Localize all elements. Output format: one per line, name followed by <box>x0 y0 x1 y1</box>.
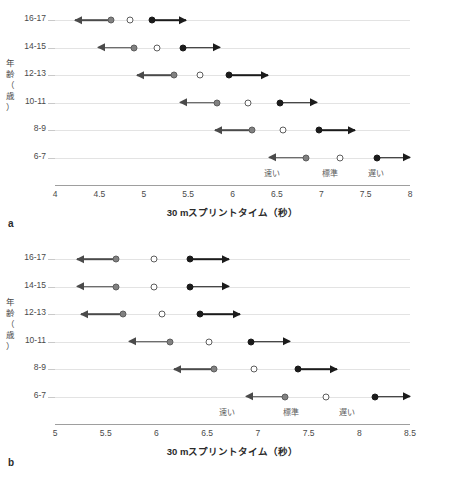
arrow-slower <box>375 396 411 398</box>
y-axis-title-char: 齢 <box>4 69 18 80</box>
y-axis-title-a: 年齢（歳） <box>4 58 18 113</box>
legend-label: 標準 <box>283 406 299 417</box>
y-axis-tick-label: 16-17 <box>24 252 46 262</box>
marker-standard <box>158 311 165 318</box>
y-axis-tick-label: 8-9 <box>34 123 46 133</box>
panel-a: 年齢（歳） 16-1714-1512-1310-118-96-7速い標準遅い44… <box>0 0 463 239</box>
y-axis-tick <box>48 20 55 21</box>
legend-label: 速い <box>264 167 280 178</box>
x-axis-tick-label: 5 <box>53 428 58 438</box>
x-axis-tick-label: 7.5 <box>360 189 372 199</box>
y-axis-tick-label: 10-11 <box>25 335 46 345</box>
y-axis-title-char: 歳 <box>4 330 18 341</box>
marker-fast <box>249 127 256 134</box>
arrow-slower <box>190 286 230 288</box>
y-axis-title-char: ） <box>4 102 18 113</box>
gridline-row: 8-9 <box>55 369 410 370</box>
arrow-faster <box>137 74 174 76</box>
x-axis-tick-label: 4 <box>53 189 58 199</box>
panel-letter-a: a <box>8 218 14 229</box>
marker-standard <box>322 393 329 400</box>
marker-fast <box>282 393 289 400</box>
legend-label: 標準 <box>322 167 338 178</box>
x-axis-tick-label: 8 <box>357 428 362 438</box>
marker-standard <box>280 127 287 134</box>
marker-slow <box>179 44 186 51</box>
y-axis-tick-label: 6-7 <box>34 390 46 400</box>
y-axis-title-char: 年 <box>4 297 18 308</box>
marker-fast <box>303 154 310 161</box>
arrow-faster <box>81 313 123 315</box>
y-axis-title-char: 歳 <box>4 91 18 102</box>
y-axis-tick <box>48 369 55 370</box>
marker-standard <box>206 338 213 345</box>
y-axis-tick <box>48 48 55 49</box>
gridline-row: 10-11 <box>55 103 410 104</box>
y-axis-tick <box>48 75 55 76</box>
marker-slow <box>315 127 322 134</box>
panel-letter-b: b <box>8 457 14 468</box>
x-axis-title: 30 mスプリントタイム（秒） <box>55 444 410 458</box>
marker-fast <box>170 72 177 79</box>
y-axis-tick <box>48 287 55 288</box>
arrow-slower <box>251 341 291 343</box>
marker-standard <box>154 44 161 51</box>
legend-label: 遅い <box>339 406 355 417</box>
marker-fast <box>211 366 218 373</box>
y-axis-tick-label: 6-7 <box>34 151 46 161</box>
marker-fast <box>112 256 119 263</box>
marker-slow <box>371 393 378 400</box>
plot-area-a: 16-1714-1512-1310-118-96-7速い標準遅い44.555.5… <box>55 8 410 188</box>
x-axis-line <box>55 424 410 425</box>
x-axis-ticks: 55.566.577.588.5 <box>55 428 410 442</box>
marker-fast <box>112 283 119 290</box>
marker-slow <box>148 17 155 24</box>
arrow-faster <box>98 47 134 49</box>
marker-standard <box>196 72 203 79</box>
y-axis-tick-label: 10-11 <box>25 96 46 106</box>
y-axis-title-char: （ <box>4 80 18 91</box>
arrow-slower <box>319 129 355 131</box>
marker-standard <box>127 17 134 24</box>
y-axis-tick <box>48 158 55 159</box>
marker-slow <box>225 72 232 79</box>
marker-fast <box>130 44 137 51</box>
plot-area-b: 16-1714-1512-1310-118-96-7速い標準遅い55.566.5… <box>55 247 410 427</box>
arrow-slower <box>280 102 317 104</box>
arrow-slower <box>152 19 187 21</box>
y-axis-tick-label: 14-15 <box>24 280 46 290</box>
marker-slow <box>197 311 204 318</box>
legend-label: 速い <box>219 406 235 417</box>
y-axis-title-char: 年 <box>4 58 18 69</box>
x-axis-tick-label: 5.5 <box>182 189 194 199</box>
y-axis-title-char: ） <box>4 341 18 352</box>
arrow-faster <box>269 157 306 159</box>
marker-fast <box>107 17 114 24</box>
arrow-slower <box>377 157 410 159</box>
y-axis-tick-label: 8-9 <box>34 362 46 372</box>
marker-standard <box>336 154 343 161</box>
arrow-slower <box>298 368 337 370</box>
x-axis-tick-label: 8 <box>408 189 413 199</box>
arrow-faster <box>215 129 252 131</box>
x-axis-tick-label: 8.5 <box>404 428 416 438</box>
y-axis-tick-label: 16-17 <box>24 13 46 23</box>
marker-standard <box>244 99 251 106</box>
gridline-row: 6-7 <box>55 158 410 159</box>
arrow-slower <box>229 74 268 76</box>
x-axis-title: 30 mスプリントタイム（秒） <box>55 205 410 219</box>
arrow-faster <box>174 368 215 370</box>
x-axis-tick-label: 7 <box>319 189 324 199</box>
x-axis-tick-label: 7 <box>255 428 260 438</box>
figure-container: 年齢（歳） 16-1714-1512-1310-118-96-7速い標準遅い44… <box>0 0 463 478</box>
marker-slow <box>186 256 193 263</box>
x-axis-tick-label: 6 <box>230 189 235 199</box>
x-axis-tick-label: 5.5 <box>100 428 112 438</box>
y-axis-title-char: 齢 <box>4 308 18 319</box>
x-axis-tick-label: 6 <box>154 428 159 438</box>
y-axis-title-char: （ <box>4 319 18 330</box>
arrow-faster <box>77 258 116 260</box>
gridline-row: 6-7 <box>55 397 410 398</box>
panel-b: 年齢（歳） 16-1714-1512-1310-118-96-7速い標準遅い55… <box>0 239 463 478</box>
y-axis-tick-label: 12-13 <box>24 68 46 78</box>
